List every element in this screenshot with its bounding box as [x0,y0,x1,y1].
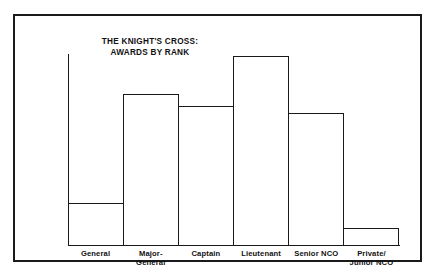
category-label-major-general: Major- General [123,249,178,268]
bar-series [68,54,399,245]
category-label-lieutenant: Lieutenant [234,249,289,268]
figure-frame: THE KNIGHT'S CROSS: AWARDS BY RANK Gener… [13,14,422,262]
category-label-senior-nco: Senior NCO [289,249,344,268]
category-label-captain: Captain [178,249,233,268]
category-label-general: General [68,249,123,268]
x-axis-category-labels: General Major- General Captain Lieutenan… [68,249,399,268]
bar-lieutenant[interactable] [233,56,289,245]
chart-title-line-1: THE KNIGHT'S CROSS: [75,37,225,48]
bar-major-general[interactable] [123,94,179,245]
category-label-private-junior-nco: Private/ Junior NCO [344,249,399,268]
bar-general[interactable] [68,203,124,245]
bar-captain[interactable] [178,106,234,245]
bar-private-junior-nco[interactable] [343,228,399,245]
x-axis-baseline [68,245,400,246]
bar-senior-nco[interactable] [288,113,344,245]
chart-figure: THE KNIGHT'S CROSS: AWARDS BY RANK Gener… [0,0,435,275]
